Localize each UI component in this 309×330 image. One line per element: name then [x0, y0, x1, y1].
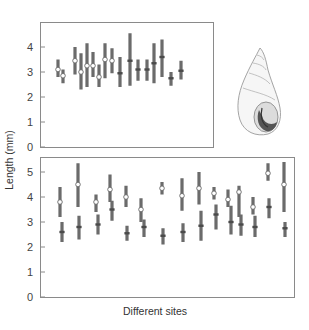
range-bar	[212, 187, 217, 200]
range-bar	[124, 186, 129, 207]
range-bar	[144, 60, 149, 81]
bottom-y-axis: 012345	[27, 166, 45, 303]
mean-marker-open	[85, 63, 90, 68]
range-bar	[91, 52, 96, 77]
range-bar	[180, 223, 185, 242]
y-tick-label: 3	[27, 216, 33, 228]
mean-marker-open	[103, 57, 108, 62]
y-tick-label: 3	[27, 66, 33, 78]
mean-marker-open	[91, 63, 96, 68]
mean-marker-filled	[180, 231, 185, 233]
mean-marker-open	[97, 75, 102, 80]
range-bar	[198, 211, 203, 241]
top-panel-bars	[56, 33, 184, 89]
mean-marker-filled	[213, 213, 218, 215]
mean-marker-filled	[117, 72, 122, 74]
y-tick-label: 4	[27, 41, 33, 53]
y-axis-label: Length (mm)	[3, 130, 15, 190]
mean-marker-filled	[141, 226, 146, 228]
range-bar	[141, 220, 146, 238]
range-bar	[178, 61, 183, 80]
range-bar	[151, 43, 156, 83]
y-tick-label: 1	[27, 266, 33, 278]
mean-marker-open	[266, 171, 271, 176]
range-bar	[180, 178, 185, 211]
mean-marker-open	[76, 182, 81, 187]
mean-marker-open	[110, 58, 115, 63]
range-bar	[282, 222, 287, 237]
mean-marker-open	[226, 197, 231, 202]
mean-marker-open	[180, 193, 185, 198]
range-bar	[61, 70, 66, 84]
range-bar	[110, 48, 115, 73]
range-bar	[237, 186, 242, 217]
mean-marker-filled	[76, 226, 81, 228]
mean-marker-open	[282, 182, 287, 187]
range-bar	[160, 182, 165, 195]
snail-shell-illustration	[238, 48, 281, 135]
range-bar	[109, 201, 114, 221]
range-bar	[226, 190, 231, 208]
range-bar	[124, 226, 129, 241]
range-bar	[95, 215, 100, 235]
range-bar	[266, 198, 271, 218]
y-tick-label: 0	[27, 141, 33, 153]
range-bar	[228, 206, 233, 235]
range-bar	[103, 43, 108, 78]
mean-marker-filled	[151, 62, 156, 64]
range-bar	[58, 187, 63, 217]
mean-marker-filled	[228, 221, 233, 223]
range-bar	[252, 216, 257, 237]
range-bar	[94, 195, 99, 213]
mean-marker-open	[61, 73, 66, 78]
range-bar	[139, 198, 144, 222]
range-bar	[135, 60, 140, 81]
mean-marker-open	[56, 67, 61, 72]
range-bar	[160, 228, 165, 244]
mean-marker-filled	[266, 206, 271, 208]
y-tick-label: 2	[27, 91, 33, 103]
mean-marker-open	[58, 200, 63, 205]
mean-marker-open	[139, 207, 144, 212]
mean-marker-filled	[127, 60, 132, 62]
mean-marker-filled	[124, 232, 129, 234]
x-axis-label: Different sites	[123, 305, 187, 317]
y-tick-label: 1	[27, 116, 33, 128]
range-bar	[76, 216, 81, 240]
range-bar	[238, 215, 243, 236]
mean-marker-filled	[159, 56, 164, 58]
y-tick-label: 2	[27, 241, 33, 253]
mean-marker-filled	[178, 70, 183, 72]
range-bar	[117, 57, 122, 87]
range-bar	[266, 163, 271, 181]
mean-marker-filled	[282, 227, 287, 229]
bottom-panel-bars	[58, 162, 288, 245]
y-tick-label: 4	[27, 191, 33, 203]
range-bar	[127, 33, 132, 86]
range-bar	[213, 205, 218, 230]
mean-marker-open	[160, 186, 165, 191]
mean-marker-filled	[198, 225, 203, 227]
range-bar	[197, 172, 202, 205]
range-bar	[159, 40, 164, 78]
mean-marker-filled	[109, 208, 114, 210]
range-bar	[79, 53, 84, 89]
mean-marker-filled	[135, 68, 140, 70]
range-bar	[56, 60, 61, 78]
mean-marker-filled	[144, 68, 149, 70]
mean-marker-open	[251, 205, 256, 210]
y-tick-label: 5	[27, 166, 33, 178]
range-bar	[73, 47, 78, 75]
mean-marker-open	[124, 195, 129, 200]
mean-marker-open	[73, 58, 78, 63]
range-bar	[76, 163, 81, 207]
y-tick-label: 0	[27, 291, 33, 303]
top-panel-frame	[41, 23, 214, 148]
range-bar	[85, 43, 90, 87]
range-bar	[251, 197, 256, 215]
mean-marker-open	[197, 186, 202, 191]
range-bar	[59, 222, 64, 242]
range-bar	[168, 72, 173, 86]
range-bar	[97, 65, 102, 88]
mean-marker-open	[212, 191, 217, 196]
